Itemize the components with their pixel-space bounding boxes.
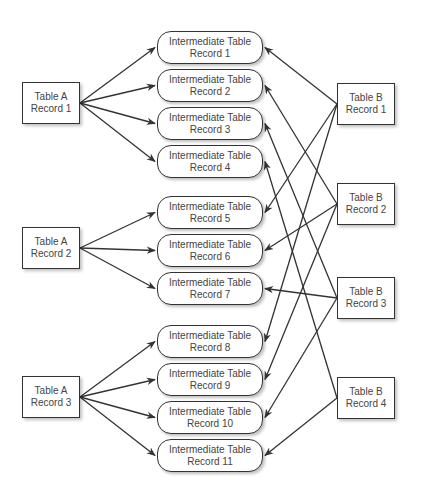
intermediate-record-6: Intermediate TableRecord 6 bbox=[157, 234, 263, 267]
node-label-line1: Intermediate Table bbox=[169, 406, 251, 418]
node-label-line1: Table B bbox=[349, 386, 382, 398]
table-b-record-3: Table BRecord 3 bbox=[337, 277, 395, 319]
node-label-line2: Record 2 bbox=[190, 86, 231, 98]
table-a-record-3: Table ARecord 3 bbox=[22, 376, 80, 418]
node-label-line1: Table B bbox=[349, 286, 382, 298]
node-label-line2: Record 8 bbox=[190, 342, 231, 354]
node-label-line2: Record 3 bbox=[31, 397, 72, 409]
intermediate-record-3: Intermediate TableRecord 3 bbox=[157, 107, 263, 140]
arrow-B2-to-I9 bbox=[265, 204, 337, 380]
arrow-A1-to-I4 bbox=[80, 103, 155, 162]
node-label-line2: Record 10 bbox=[187, 418, 233, 430]
arrow-A1-to-I3 bbox=[80, 103, 155, 124]
arrow-A2-to-I6 bbox=[80, 248, 155, 251]
table-b-record-4: Table BRecord 4 bbox=[337, 377, 395, 419]
node-label-line2: Record 7 bbox=[190, 289, 231, 301]
arrow-B1-to-I8 bbox=[265, 104, 337, 342]
node-label-line2: Record 2 bbox=[31, 248, 72, 260]
arrow-B2-to-I2 bbox=[265, 86, 337, 205]
intermediate-record-10: Intermediate TableRecord 10 bbox=[157, 401, 263, 434]
table-a-record-1: Table ARecord 1 bbox=[22, 82, 80, 124]
node-label-line1: Intermediate Table bbox=[169, 74, 251, 86]
node-label-line1: Intermediate Table bbox=[169, 277, 251, 289]
node-label-line2: Record 11 bbox=[187, 456, 232, 468]
table-a-record-2: Table ARecord 2 bbox=[22, 227, 80, 269]
node-label-line2: Record 3 bbox=[190, 124, 231, 136]
intermediate-record-8: Intermediate TableRecord 8 bbox=[157, 325, 263, 358]
arrow-A3-to-I11 bbox=[80, 397, 155, 456]
node-label-line1: Table A bbox=[35, 236, 68, 248]
node-label-line2: Record 9 bbox=[190, 380, 231, 392]
node-label-line1: Table A bbox=[35, 385, 68, 397]
node-label-line1: Intermediate Table bbox=[169, 201, 251, 213]
table-b-record-1: Table BRecord 1 bbox=[337, 83, 395, 125]
node-label-line1: Intermediate Table bbox=[169, 368, 251, 380]
node-label-line2: Record 1 bbox=[190, 48, 231, 60]
node-label-line1: Intermediate Table bbox=[169, 330, 251, 342]
intermediate-record-1: Intermediate TableRecord 1 bbox=[157, 31, 263, 64]
arrow-A3-to-I10 bbox=[80, 397, 155, 418]
intermediate-record-4: Intermediate TableRecord 4 bbox=[157, 145, 263, 178]
node-label-line1: Intermediate Table bbox=[169, 36, 251, 48]
node-label-line2: Record 4 bbox=[346, 398, 387, 410]
node-label-line1: Table B bbox=[349, 192, 382, 204]
arrow-B1-to-I1 bbox=[265, 48, 337, 105]
arrow-B4-to-I11 bbox=[265, 398, 337, 456]
node-label-line2: Record 1 bbox=[31, 103, 72, 115]
node-label-line1: Intermediate Table bbox=[169, 239, 251, 251]
table-b-record-2: Table BRecord 2 bbox=[337, 183, 395, 225]
intermediate-record-9: Intermediate TableRecord 9 bbox=[157, 363, 263, 396]
arrow-B3-to-I10 bbox=[265, 298, 337, 418]
node-label-line2: Record 6 bbox=[190, 251, 231, 263]
node-label-line1: Intermediate Table bbox=[169, 112, 251, 124]
node-label-line2: Record 4 bbox=[190, 162, 231, 174]
intermediate-record-5: Intermediate TableRecord 5 bbox=[157, 196, 263, 229]
node-label-line1: Intermediate Table bbox=[169, 150, 251, 162]
arrow-B4-to-I4 bbox=[265, 162, 337, 399]
node-label-line2: Record 5 bbox=[190, 213, 231, 225]
intermediate-record-11: Intermediate TableRecord 11 bbox=[157, 439, 263, 472]
intermediate-record-7: Intermediate TableRecord 7 bbox=[157, 272, 263, 305]
node-label-line2: Record 2 bbox=[346, 204, 387, 216]
intermediate-record-2: Intermediate TableRecord 2 bbox=[157, 69, 263, 102]
arrow-A2-to-I7 bbox=[80, 248, 155, 289]
node-label-line1: Intermediate Table bbox=[169, 444, 251, 456]
arrow-A2-to-I5 bbox=[80, 213, 155, 249]
node-label-line2: Record 3 bbox=[346, 298, 387, 310]
node-label-line1: Table B bbox=[349, 92, 382, 104]
arrow-B3-to-I7 bbox=[265, 289, 337, 299]
node-label-line2: Record 1 bbox=[346, 104, 387, 116]
node-label-line1: Table A bbox=[35, 91, 68, 103]
